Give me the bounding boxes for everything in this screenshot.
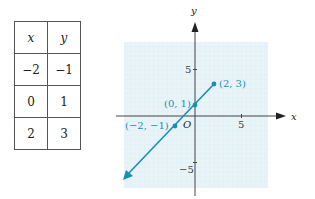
y-axis-label: y <box>190 5 197 16</box>
point-0-1 <box>193 103 198 108</box>
point-label: (2, 3) <box>219 78 246 89</box>
y-arrow-icon <box>192 22 199 32</box>
point-label: (−2, −1) <box>125 120 169 131</box>
x-axis-label: x <box>291 111 297 122</box>
graph: x y O 5 5 −5 (2, 3) (0, 1) (−2, −1) <box>0 0 315 199</box>
point-neg2-neg1 <box>173 124 178 129</box>
point-2-3 <box>212 82 217 87</box>
x-arrow-icon <box>276 113 286 120</box>
x-tick-5: 5 <box>238 119 244 130</box>
origin-label: O <box>183 119 191 130</box>
point-label: (0, 1) <box>164 98 191 109</box>
y-tick-5: 5 <box>185 64 191 75</box>
y-tick-neg5: −5 <box>179 164 194 175</box>
